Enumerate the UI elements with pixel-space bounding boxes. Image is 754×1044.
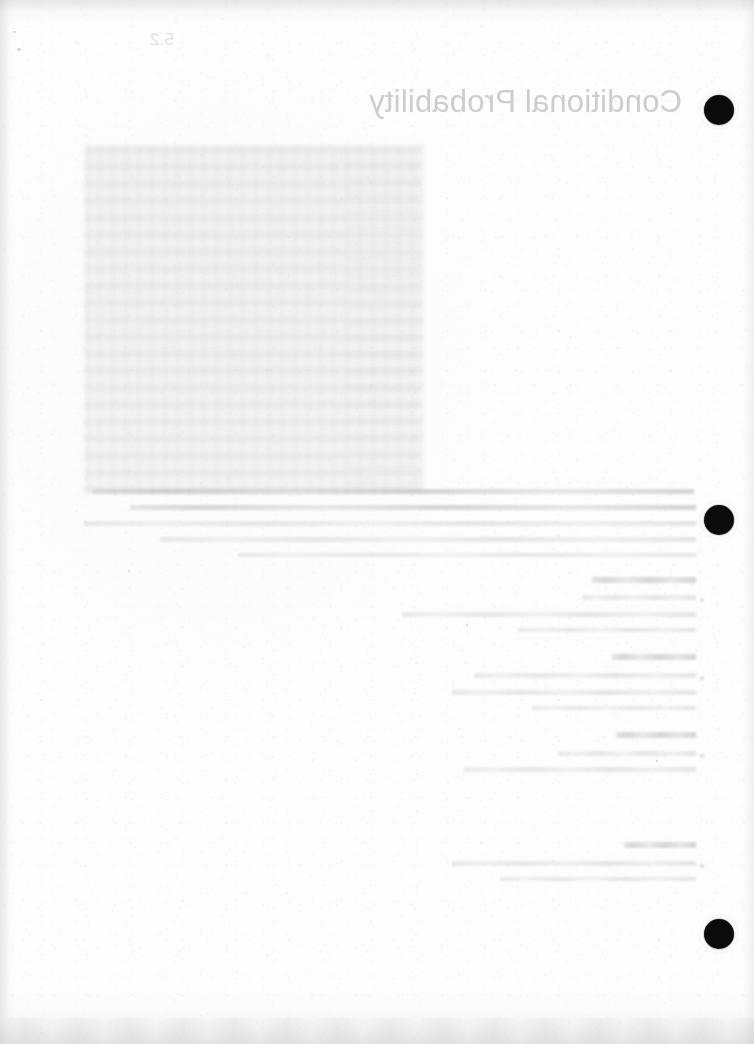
bleedthrough-section-heading [616,732,696,738]
scan-edge-top [0,0,754,22]
scan-speck [17,48,21,51]
bleedthrough-section-line [532,706,696,710]
bleedthrough-section-line [518,628,696,632]
bottom-punch-hole [704,919,734,949]
bleedthrough-paragraph-line [92,489,694,494]
bleedthrough-paragraph-line [130,505,696,510]
scanned-page: 5.2 Conditional Probability [0,0,754,1044]
bleedthrough-section-line [452,861,696,866]
scan-speck [656,760,658,762]
bleedthrough-section-heading [624,842,696,848]
scan-edge-bottom-texture [0,1018,754,1044]
bleedthrough-bullet-icon [700,676,704,680]
bleedthrough-section-line [474,673,696,678]
bleedthrough-section-heading [612,654,696,660]
bleedthrough-bullet-icon [700,598,704,602]
bleedthrough-figure-block-right [345,150,423,486]
scan-speck [466,624,468,626]
bleedthrough-paragraph-line [84,521,696,526]
bleedthrough-section-line [558,751,696,756]
scan-edge-left [0,0,16,1044]
scan-speck [128,570,130,572]
scan-edge-right [744,0,754,1044]
bleedthrough-section-line [582,595,696,600]
bleedthrough-section-line [464,767,696,772]
top-punch-hole [704,95,734,125]
bleedthrough-section-heading [592,577,696,583]
bleedthrough-bullet-icon [700,864,704,868]
bleedthrough-section-line [402,612,696,617]
middle-punch-hole [704,505,734,535]
bleedthrough-bullet-icon [700,754,704,758]
bleedthrough-section-line [500,877,696,881]
bleedthrough-paragraph-line [238,553,696,557]
bleedthrough-paragraph-line [160,537,696,542]
bleedthrough-section-line [452,690,696,695]
